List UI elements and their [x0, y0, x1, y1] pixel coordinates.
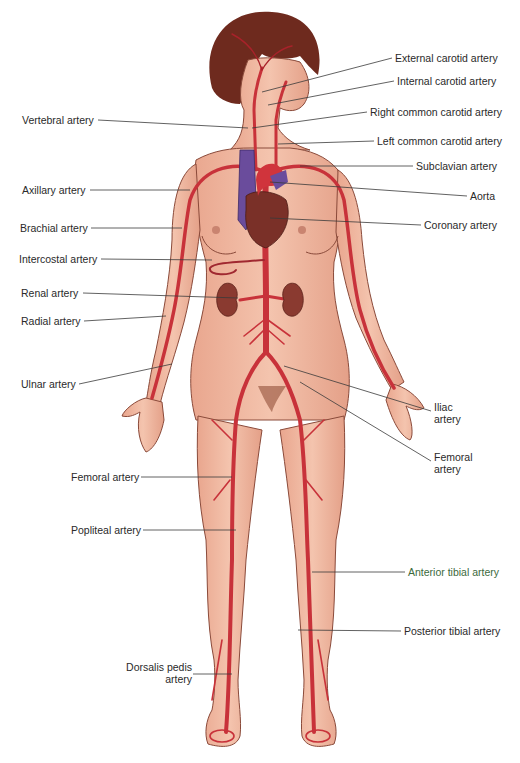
label-femoral-right-line1: Femoral	[434, 451, 473, 463]
label-brachial-artery: Brachial artery	[20, 222, 88, 234]
label-popliteal-artery: Popliteal artery	[71, 524, 141, 536]
label-external-carotid-artery: External carotid artery	[395, 52, 498, 64]
label-femoral-right-line2: artery	[434, 463, 473, 475]
label-iliac-artery: Iliac artery	[434, 401, 461, 425]
label-dorsalis-pedis-line2: artery	[122, 673, 192, 685]
label-ulnar-artery: Ulnar artery	[21, 378, 76, 390]
label-radial-artery: Radial artery	[21, 315, 81, 327]
label-femoral-artery-right: Femoral artery	[434, 451, 473, 475]
label-coronary-artery: Coronary artery	[424, 219, 497, 231]
label-iliac-line1: Iliac	[434, 401, 461, 413]
label-iliac-line2: artery	[434, 413, 461, 425]
label-internal-carotid-artery: Internal carotid artery	[397, 75, 496, 87]
label-aorta: Aorta	[470, 190, 495, 202]
label-axillary-artery: Axillary artery	[22, 184, 86, 196]
label-dorsalis-pedis-artery: Dorsalis pedis artery	[122, 661, 192, 685]
label-posterior-tibial-artery: Posterior tibial artery	[404, 625, 500, 637]
label-renal-artery: Renal artery	[21, 287, 78, 299]
label-vertebral-artery: Vertebral artery	[22, 114, 94, 126]
label-left-common-carotid-artery: Left common carotid artery	[377, 135, 502, 147]
label-anterior-tibial-artery: Anterior tibial artery	[408, 566, 499, 578]
label-dorsalis-pedis-line1: Dorsalis pedis	[122, 661, 192, 673]
label-right-common-carotid-artery: Right common carotid artery	[370, 106, 502, 118]
label-femoral-artery-left: Femoral artery	[71, 471, 139, 483]
label-intercostal-artery: Intercostal artery	[19, 253, 97, 265]
label-subclavian-artery: Subclavian artery	[416, 160, 497, 172]
